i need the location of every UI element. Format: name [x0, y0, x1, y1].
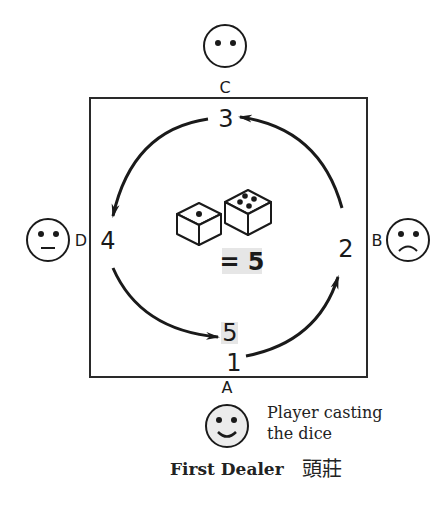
caption-line-2: the dice	[267, 424, 332, 443]
player-a-face-icon	[206, 405, 248, 447]
count-position-2: 2	[338, 235, 353, 263]
player-d-face-icon	[27, 219, 69, 261]
count-position-1: 1	[226, 349, 241, 377]
count-position-4: 4	[100, 227, 115, 255]
count-position-5: 5	[222, 319, 237, 347]
first-dealer-chinese: 頭莊	[302, 457, 342, 481]
first-dealer-label: First Dealer	[170, 459, 285, 479]
seat-label-c: C	[219, 78, 230, 97]
caption-line-1: Player casting	[267, 403, 382, 422]
die-one-icon	[177, 203, 221, 245]
arrow-4-to-5	[113, 268, 218, 337]
seat-label-d: D	[75, 231, 87, 250]
arrow-3-to-4	[113, 119, 208, 216]
seat-label-b: B	[372, 231, 383, 250]
seat-label-a: A	[222, 378, 233, 397]
dice-result-label: = 5	[219, 248, 264, 276]
count-position-3: 3	[218, 105, 233, 133]
arrow-1-to-2	[246, 277, 338, 356]
player-b-face-icon	[387, 219, 429, 261]
dice-casting-diagram: C D B A 3 4 2 5 1	[0, 0, 448, 509]
player-c-face-icon	[204, 25, 246, 67]
die-four-icon	[225, 190, 271, 235]
